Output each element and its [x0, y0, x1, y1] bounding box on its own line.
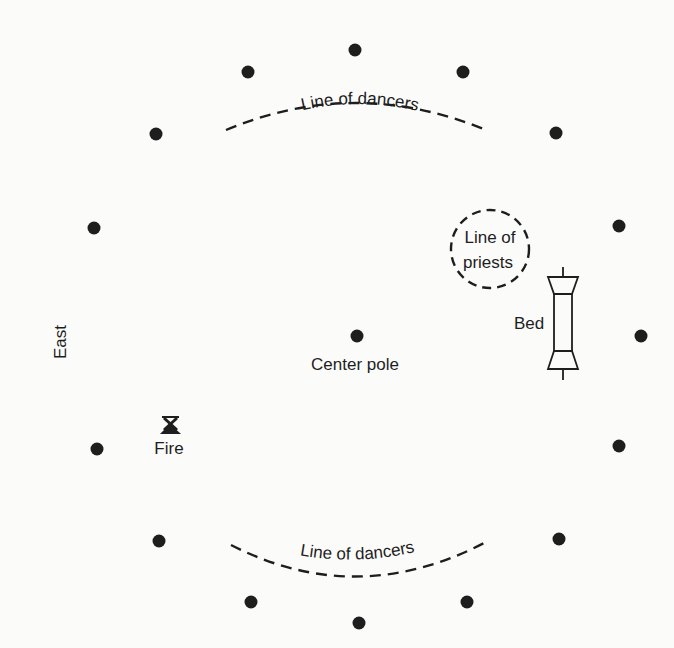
perimeter-post-dot — [613, 440, 626, 453]
center-pole-dot — [351, 330, 364, 343]
east-direction-label: East — [51, 325, 70, 359]
bed-label: Bed — [514, 314, 544, 333]
dance-ground-diagram: Center pole Line of dancers Line of danc… — [0, 0, 674, 648]
perimeter-post-dot — [153, 535, 166, 548]
perimeter-post-dot — [91, 443, 104, 456]
perimeter-post-dot — [353, 617, 366, 630]
priests-label-line1: Line of — [464, 228, 515, 247]
fire-label: Fire — [154, 439, 183, 458]
perimeter-post-dot — [150, 128, 163, 141]
perimeter-post-dot — [88, 222, 101, 235]
top-dancers-label: Line of dancers — [299, 89, 421, 115]
bed-icon — [548, 267, 578, 380]
perimeter-post-dot — [242, 66, 255, 79]
perimeter-post-dot — [457, 66, 470, 79]
priests-circle — [451, 210, 529, 288]
perimeter-post-dot — [635, 330, 648, 343]
perimeter-post-dot — [613, 220, 626, 233]
perimeter-post-dot — [245, 596, 258, 609]
perimeter-post-dot — [550, 127, 563, 140]
perimeter-post-dot — [349, 44, 362, 57]
perimeter-post-dot — [461, 596, 474, 609]
center-pole-label: Center pole — [311, 355, 399, 374]
perimeter-post-dot — [553, 533, 566, 546]
perimeter-posts — [88, 44, 648, 630]
fire-icon — [160, 417, 181, 434]
priests-label-line2: priests — [463, 253, 513, 272]
bottom-dancers-label: Line of dancers — [299, 537, 416, 564]
